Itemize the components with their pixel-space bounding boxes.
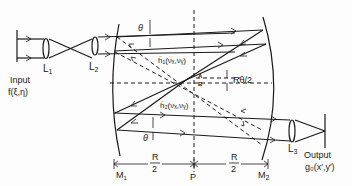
center-p-label: P [190,172,196,182]
lens-l3-label: L3 [288,143,298,155]
mirror-m2-label: M2 [258,170,270,181]
h2-label: ĥ₂(νₓ,νᵧ) [160,101,189,110]
lens-l2-label: L2 [89,61,99,73]
h1-label: ĥ₁(νₓ,νᵧ) [158,56,186,65]
input-function: f(ξ,η) [8,87,28,97]
point-a-label: A [198,73,203,79]
lens-l3 [289,120,325,142]
mirror-m1 [113,24,120,156]
lens-l1 [43,39,92,59]
output-title: Output [304,150,332,160]
output-function: g₀(x′,y′) [305,162,335,172]
input-plane [17,30,44,62]
mirror-m1-label: M1 [116,170,128,181]
theta-top-label: θ [138,23,143,33]
dist-left-numerator: R [152,152,159,162]
dist-right-denominator: 2 [231,164,236,174]
bottom-beams [114,112,290,143]
r-theta-label: Rθ/2 [233,75,252,85]
lens-l2 [92,33,235,57]
theta-bottom-label: θ [143,133,148,143]
dist-right-numerator: R [231,152,238,162]
point-b-label: B [198,81,203,87]
optical-diagram: Input f(ξ,η) L1 L2 L3 θ θ ĥ₁(νₓ,νᵧ) ĥ₂(ν… [0,0,352,186]
dist-left-denominator: 2 [152,164,157,174]
input-title: Input [10,75,31,85]
lens-l1-label: L1 [43,63,53,75]
diagram-canvas: Input f(ξ,η) L1 L2 L3 θ θ ĥ₁(νₓ,νᵧ) ĥ₂(ν… [0,0,352,186]
dimension-line [114,159,268,169]
